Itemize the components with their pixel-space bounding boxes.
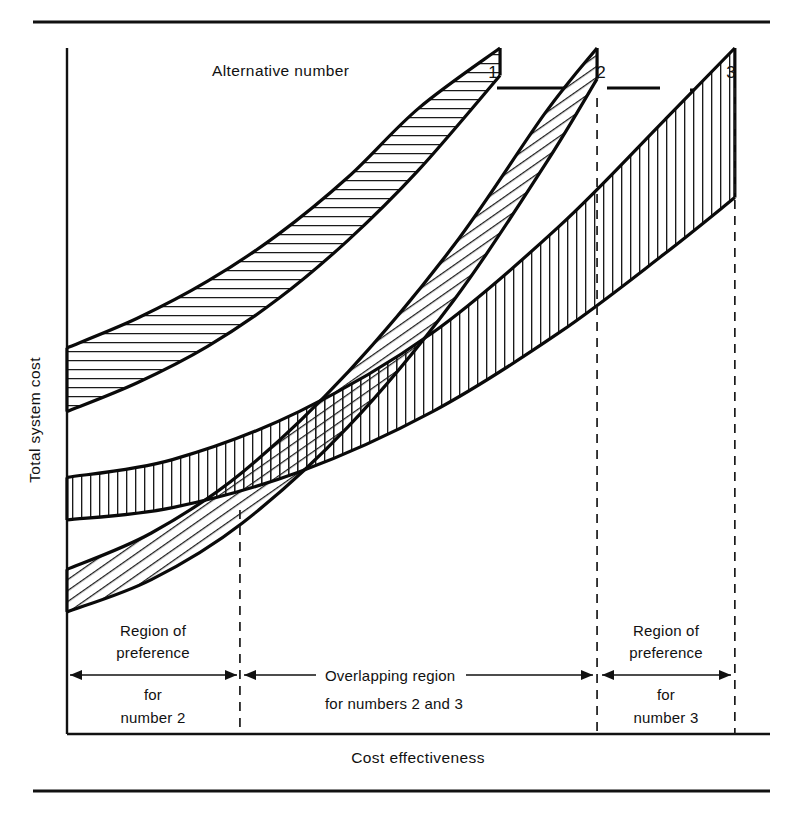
legend-caption: Alternative number (212, 62, 349, 79)
annotation-region-preference-2: Region of preference for number 2 (70, 622, 237, 726)
anno-right-line3: for (657, 686, 675, 703)
anno-left-line3: for (144, 686, 162, 703)
anno-left-line1: Region of (120, 622, 187, 639)
overlap-2-3 (67, 48, 735, 520)
anno-mid-line1: Overlapping region (325, 667, 455, 684)
annotation-region-overlap: Overlapping region for numbers 2 and 3 (244, 667, 593, 712)
figure-root: Alternative number 1 2 3 Total system co… (0, 0, 795, 817)
legend-number-3: 3 (726, 63, 735, 82)
chart-canvas: Alternative number 1 2 3 Total system co… (0, 0, 795, 817)
legend-number-2: 2 (596, 63, 605, 82)
anno-left-arrowhead-start (70, 670, 82, 680)
bands-layer (67, 48, 735, 612)
y-axis-label: Total system cost (26, 357, 43, 483)
anno-right-arrowhead-end (719, 670, 731, 680)
anno-mid-line2: for numbers 2 and 3 (325, 695, 463, 712)
anno-right-line2: preference (629, 644, 703, 661)
anno-left-line4: number 2 (121, 709, 186, 726)
anno-left-arrowhead-end (225, 670, 237, 680)
overlap-1-3 (67, 48, 735, 520)
annotation-region-preference-3: Region of preference for number 3 (602, 622, 731, 726)
anno-left-line2: preference (116, 644, 190, 661)
overlap-fill-3 (67, 48, 735, 520)
x-axis-label: Cost effectiveness (351, 749, 485, 766)
overlap-fill-3 (67, 48, 735, 520)
anno-mid-arrowhead-end (581, 670, 593, 680)
anno-right-line1: Region of (633, 622, 700, 639)
anno-right-line4: number 3 (634, 709, 699, 726)
band-3-area (67, 48, 735, 520)
anno-mid-arrowhead-start (244, 670, 256, 680)
anno-right-arrowhead-start (602, 670, 614, 680)
legend-number-1: 1 (488, 63, 497, 82)
